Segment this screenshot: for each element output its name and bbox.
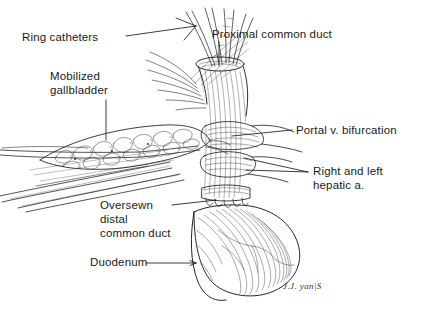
hepatic-arteries-drawing xyxy=(200,152,292,182)
surgical-illustration-figure: Ring catheters Mobilized gallbladder Pro… xyxy=(0,0,430,311)
artist-signature: J.J. yan|S xyxy=(283,281,322,291)
anatomy-artwork xyxy=(0,0,430,311)
label-oversewn-distal-line3: common duct xyxy=(100,227,171,241)
portal-vein-bifurcation-drawing xyxy=(201,122,302,153)
label-oversewn-distal-line2: distal xyxy=(100,213,128,227)
label-proximal-common-duct: Proximal common duct xyxy=(212,28,332,42)
label-ring-catheters: Ring catheters xyxy=(22,31,98,45)
label-mobilized-gallbladder-line1: Mobilized xyxy=(50,70,100,84)
label-mobilized-gallbladder-line2: gallbladder xyxy=(50,84,108,98)
label-duodenum: Duodenum xyxy=(90,256,147,270)
label-right-and-left-hepatic-line2: hepatic a. xyxy=(313,179,364,193)
label-oversewn-distal-line1: Oversewn xyxy=(100,199,153,213)
label-portal-v-bifurcation: Portal v. bifurcation xyxy=(296,124,397,138)
label-right-and-left-hepatic-line1: Right and left xyxy=(313,165,383,179)
